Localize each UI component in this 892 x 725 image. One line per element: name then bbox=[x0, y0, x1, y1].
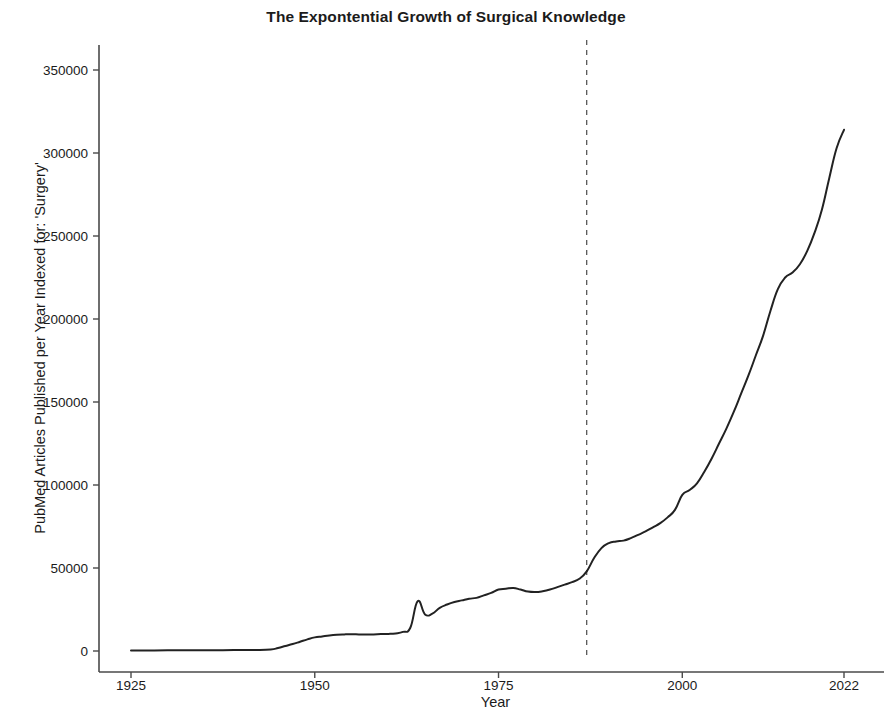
axis-spines bbox=[99, 45, 884, 672]
data-series-line bbox=[131, 130, 844, 651]
chart-figure: The Expontential Growth of Surgical Know… bbox=[0, 0, 892, 725]
y-axis-tick-marks bbox=[93, 70, 99, 651]
x-axis-tick-marks bbox=[131, 672, 844, 678]
plot-area bbox=[0, 0, 892, 725]
